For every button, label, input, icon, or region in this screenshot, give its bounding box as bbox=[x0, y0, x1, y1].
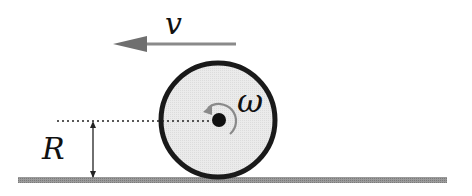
wheel-center-dot bbox=[212, 113, 226, 127]
ground-line bbox=[18, 177, 447, 183]
velocity-label: v bbox=[165, 6, 182, 41]
angular-velocity-label: ω bbox=[237, 82, 263, 120]
radius-double-arrow-icon bbox=[90, 121, 96, 178]
diagram-svg: v ω R bbox=[0, 0, 472, 196]
radius-label: R bbox=[41, 131, 65, 166]
rolling-wheel-diagram: v ω R bbox=[0, 0, 472, 196]
